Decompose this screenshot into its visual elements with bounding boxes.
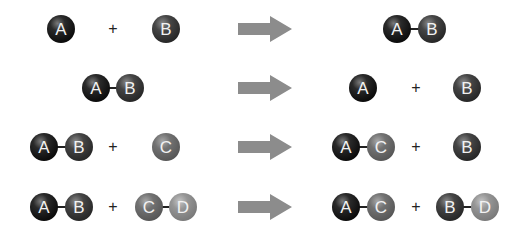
atom-c: C — [367, 133, 395, 161]
atom-a: A — [383, 15, 411, 43]
plus-sign: + — [106, 199, 120, 215]
plus-sign: + — [409, 139, 423, 155]
atom-d: D — [471, 193, 499, 221]
plus-sign: + — [409, 80, 423, 96]
atom-a: A — [349, 74, 377, 102]
atom-b: B — [436, 193, 464, 221]
atom-a: A — [332, 133, 360, 161]
atom-c: C — [367, 193, 395, 221]
plus-sign: + — [106, 21, 120, 37]
atom-b: B — [453, 133, 481, 161]
atom-b: B — [65, 133, 93, 161]
atom-b: B — [418, 15, 446, 43]
atom-b: B — [453, 74, 481, 102]
atom-a: A — [332, 193, 360, 221]
atom-a: A — [47, 15, 75, 43]
plus-sign: + — [409, 199, 423, 215]
reaction-arrow-icon — [238, 134, 292, 160]
reaction-arrow-icon — [238, 194, 292, 220]
atom-c: C — [152, 133, 180, 161]
atom-b: B — [65, 193, 93, 221]
atom-b: B — [152, 15, 180, 43]
plus-sign: + — [106, 139, 120, 155]
reaction-arrow-icon — [238, 75, 292, 101]
atom-a: A — [30, 193, 58, 221]
atom-a: A — [30, 133, 58, 161]
atom-a: A — [82, 74, 110, 102]
atom-b: B — [116, 74, 144, 102]
atom-c: C — [135, 193, 163, 221]
atom-d: D — [169, 193, 197, 221]
reaction-arrow-icon — [238, 16, 292, 42]
